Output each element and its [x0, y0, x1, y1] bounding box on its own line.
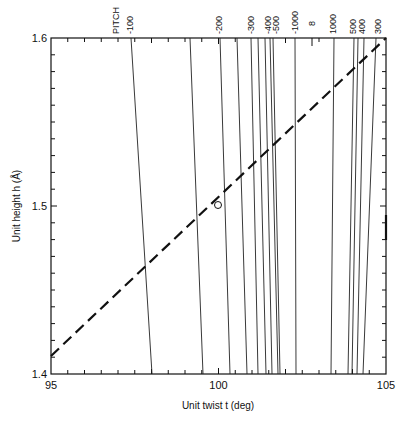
pitch-line-minus-100: [131, 38, 152, 374]
pitch-line: [258, 38, 266, 374]
pitch-lines: [131, 38, 376, 374]
pitch-line-300: [363, 38, 376, 374]
x-axis-title: Unit twist t (deg): [182, 400, 254, 411]
pitch-line-minus-300: [237, 38, 247, 374]
x-axis-top-ticks: [68, 38, 319, 46]
x-tick-100: 100: [209, 379, 227, 391]
dashed-reference-line: [51, 38, 386, 356]
top-label-300: 300: [373, 19, 383, 34]
x-tick-95: 95: [45, 379, 57, 391]
y-tick-1.5: 1.5: [32, 200, 47, 212]
pitch-chart: 1.6 1.5 1.4 95 100 105 Unit twist t (deg…: [0, 0, 409, 421]
pitch-line-minus-200: [190, 38, 203, 374]
top-label-1000: 1000: [328, 14, 338, 34]
top-label-400: 400: [357, 19, 367, 34]
pitch-line: [251, 38, 258, 374]
pitch-line-1000: [331, 38, 334, 374]
y-tick-1.6: 1.6: [32, 32, 47, 44]
x-axis-ticks: [68, 368, 370, 374]
top-label-infinity: 8: [307, 21, 317, 26]
top-label-minus-300: -300: [246, 16, 256, 34]
pitch-title: PITCH: [111, 7, 121, 34]
pitch-line: [357, 38, 364, 374]
top-label-minus-200: -200: [214, 16, 224, 34]
y-axis-title: Unit height h (Å): [10, 170, 22, 242]
x-tick-105: 105: [377, 379, 395, 391]
data-point-marker: [215, 202, 222, 209]
y-axis-ticks: [51, 55, 57, 357]
y-axis-right-ticks: [380, 55, 386, 357]
top-label-minus-100: -100: [125, 16, 135, 34]
top-label-minus-1000: -1000: [290, 11, 300, 34]
top-label-minus-500: -500: [271, 16, 281, 34]
pitch-line-minus-1000: [295, 38, 296, 374]
